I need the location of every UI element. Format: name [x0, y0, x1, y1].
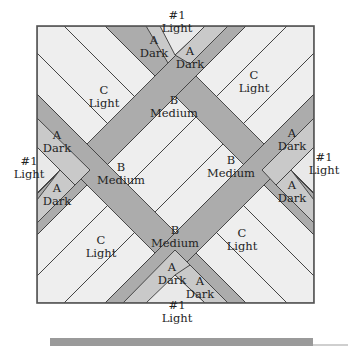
svg-text:A: A	[52, 128, 62, 142]
svg-text:Medium: Medium	[151, 236, 199, 250]
svg-text:Medium: Medium	[207, 166, 255, 180]
svg-text:A: A	[287, 178, 297, 192]
svg-text:A: A	[287, 126, 297, 140]
svg-text:Light: Light	[227, 239, 258, 253]
svg-text:#1: #1	[169, 298, 186, 312]
svg-text:Light: Light	[239, 81, 270, 95]
svg-text:#1: #1	[169, 8, 186, 22]
svg-text:Dark: Dark	[176, 57, 206, 71]
svg-text:Dark: Dark	[278, 139, 308, 153]
svg-text:Light: Light	[14, 167, 45, 181]
svg-text:#1: #1	[21, 154, 38, 168]
svg-text:#1: #1	[316, 150, 333, 164]
svg-text:A: A	[195, 274, 205, 288]
svg-text:A: A	[167, 260, 177, 274]
svg-text:C: C	[100, 83, 109, 97]
svg-text:C: C	[250, 68, 259, 82]
svg-text:A: A	[149, 33, 159, 47]
svg-text:Dark: Dark	[43, 141, 73, 155]
svg-text:C: C	[238, 226, 247, 240]
svg-text:Light: Light	[309, 163, 340, 177]
svg-text:B: B	[171, 223, 179, 237]
svg-text:Light: Light	[162, 21, 193, 35]
svg-text:C: C	[97, 233, 106, 247]
svg-text:Dark: Dark	[158, 273, 188, 287]
svg-text:B: B	[170, 93, 178, 107]
svg-text:Dark: Dark	[43, 194, 73, 208]
svg-text:Medium: Medium	[150, 106, 198, 120]
footer-bar	[50, 338, 313, 346]
svg-text:Dark: Dark	[140, 46, 170, 60]
svg-text:Dark: Dark	[278, 191, 308, 205]
svg-text:Light: Light	[89, 96, 120, 110]
svg-text:B: B	[227, 153, 235, 167]
svg-text:Dark: Dark	[186, 287, 216, 301]
svg-text:A: A	[52, 181, 62, 195]
footer-divider	[313, 344, 348, 346]
label-top-1: #1 Light	[162, 8, 193, 35]
svg-text:Medium: Medium	[97, 173, 145, 187]
svg-text:B: B	[117, 160, 125, 174]
quilt-block-diagram: #1 Light A Dark A Dark B Medium C Light …	[0, 0, 348, 348]
svg-text:A: A	[185, 44, 195, 58]
svg-text:Light: Light	[162, 311, 193, 325]
svg-text:Light: Light	[86, 246, 117, 260]
